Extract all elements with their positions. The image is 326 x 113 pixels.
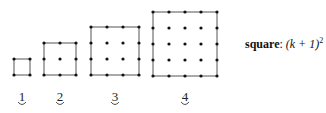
square-figure-1: 1 bbox=[12, 57, 31, 104]
dot bbox=[105, 73, 108, 76]
dot bbox=[151, 74, 154, 77]
dot bbox=[167, 58, 170, 61]
dot bbox=[105, 57, 108, 60]
dot bbox=[199, 42, 202, 45]
dot bbox=[12, 73, 15, 76]
square-outline bbox=[14, 59, 30, 75]
dot bbox=[199, 10, 202, 13]
dot bbox=[167, 74, 170, 77]
dot bbox=[151, 10, 154, 13]
dot bbox=[137, 73, 140, 76]
dot bbox=[74, 73, 77, 76]
dot bbox=[167, 10, 170, 13]
dot bbox=[151, 58, 154, 61]
square-outline bbox=[91, 27, 139, 75]
square-figure-2: 2 bbox=[42, 41, 77, 104]
square-figure-4: 4 bbox=[151, 10, 218, 104]
dot bbox=[105, 41, 108, 44]
dot bbox=[183, 74, 186, 77]
dot bbox=[151, 42, 154, 45]
square-figure-3: 3 bbox=[89, 25, 140, 104]
dot bbox=[58, 41, 61, 44]
dot bbox=[42, 57, 45, 60]
dot bbox=[42, 73, 45, 76]
dot bbox=[199, 58, 202, 61]
dot bbox=[12, 57, 15, 60]
dot bbox=[89, 57, 92, 60]
figure-label: 1 bbox=[19, 89, 26, 104]
dot bbox=[183, 26, 186, 29]
dot bbox=[215, 42, 218, 45]
formula-expr: (k + 1) bbox=[286, 37, 319, 51]
dot bbox=[121, 41, 124, 44]
dot bbox=[199, 74, 202, 77]
dot bbox=[28, 73, 31, 76]
dot bbox=[137, 41, 140, 44]
dot bbox=[121, 73, 124, 76]
dot bbox=[167, 26, 170, 29]
formula-label: square: (k + 1)2 bbox=[245, 36, 323, 52]
dot bbox=[121, 25, 124, 28]
figure-label: 4 bbox=[182, 89, 189, 104]
square-numbers-diagram: 1234 bbox=[0, 0, 326, 113]
dot bbox=[199, 26, 202, 29]
dot bbox=[137, 57, 140, 60]
dot bbox=[105, 25, 108, 28]
figure-label: 3 bbox=[112, 89, 119, 104]
dot bbox=[58, 73, 61, 76]
dot bbox=[151, 26, 154, 29]
dot bbox=[74, 57, 77, 60]
dot bbox=[183, 10, 186, 13]
dot bbox=[215, 10, 218, 13]
dot bbox=[74, 41, 77, 44]
dot bbox=[89, 73, 92, 76]
dot bbox=[42, 41, 45, 44]
dot bbox=[28, 57, 31, 60]
dot bbox=[121, 57, 124, 60]
dot bbox=[215, 74, 218, 77]
dot bbox=[183, 58, 186, 61]
dot bbox=[137, 25, 140, 28]
dot bbox=[89, 25, 92, 28]
dot bbox=[183, 42, 186, 45]
dot bbox=[58, 57, 61, 60]
dot bbox=[89, 41, 92, 44]
dot bbox=[215, 26, 218, 29]
figure-label: 2 bbox=[57, 89, 64, 104]
dot bbox=[215, 58, 218, 61]
formula-exponent: 2 bbox=[319, 36, 323, 45]
formula-word: square bbox=[245, 37, 279, 51]
dot bbox=[167, 42, 170, 45]
